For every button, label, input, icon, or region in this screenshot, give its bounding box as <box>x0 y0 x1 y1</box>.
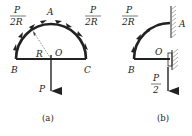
load-left-den: 2R <box>9 17 23 27</box>
force-den: 2 <box>152 85 159 95</box>
label-force-p: P <box>38 84 46 94</box>
quarter-arch <box>134 23 170 59</box>
label-c: C <box>84 65 91 75</box>
label-b: B <box>10 65 18 75</box>
load-num: P <box>125 5 133 15</box>
load-right-den: 2R <box>84 17 98 27</box>
wall-support-a <box>171 6 176 38</box>
force-num: P <box>152 73 160 83</box>
semicircle-arch <box>16 24 86 59</box>
label-b: B <box>127 65 135 75</box>
figure-b: A O B P 2R P 2 (b) <box>121 5 186 123</box>
label-r: R <box>35 49 43 59</box>
caption-a: (a) <box>42 113 54 123</box>
load-right-num: P <box>89 5 97 15</box>
mechanics-diagram: A R O B C P P 2R P 2R (a) <box>0 0 192 136</box>
label-o: O <box>55 48 63 58</box>
label-o: O <box>155 47 163 57</box>
caption-b: (b) <box>157 113 169 123</box>
load-den: 2R <box>121 17 135 27</box>
figure-a: A R O B C P P 2R P 2R (a) <box>9 5 101 123</box>
label-a: A <box>46 7 54 17</box>
load-left-num: P <box>13 5 21 15</box>
label-a: A <box>178 19 186 29</box>
